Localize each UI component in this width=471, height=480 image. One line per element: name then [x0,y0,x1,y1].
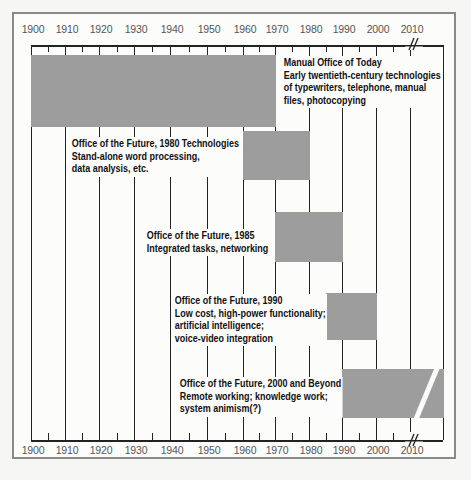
label-line: Remote working; knowledge work; [180,391,341,404]
axis-label-top: 1980 [300,23,323,35]
axis-label-top: 1920 [90,23,113,35]
tick-half-top [292,45,293,52]
bottom-axis-line [31,440,443,442]
axis-label-bottom: 1960 [234,444,257,456]
timeline-bar [31,55,276,127]
label-manual-office: Manual Office of Today Early twentieth-c… [282,56,442,108]
axis-label-top: 1960 [234,23,257,35]
label-title: Office of the Future, 1990 [175,295,326,308]
tick-half-top [117,45,118,52]
axis-label-top: 2000 [367,23,390,35]
timeline-bar [243,131,310,180]
label-title: Office of the Future, 1985 [147,230,269,243]
axis-label-bottom: 1980 [300,444,323,456]
axis-label-bottom: 1990 [333,444,356,456]
axis-label-bottom: 2000 [367,444,390,456]
axis-label-top: 1940 [161,23,184,35]
label-line: files, photocopying [284,95,441,108]
axis-label-bottom: 1900 [22,444,45,456]
label-line: of typewriters, telephone, manual [284,82,441,95]
axis-label-top: 1970 [266,23,289,35]
timeline-bar [342,369,444,418]
label-line: artificial intelligence; [175,320,326,333]
label-future-1980: Office of the Future, 1980 Technologies … [70,137,241,177]
label-line: Stand-alone word processing, [72,151,239,164]
top-axis-line [31,45,443,47]
label-future-2000: Office of the Future, 2000 and Beyond Re… [178,377,343,417]
tick-half-bottom [393,433,394,440]
tick-half-top [326,45,327,52]
timeline-bar [275,212,343,262]
axis-label-top: 1900 [22,23,45,35]
axis-label-bottom: 1950 [198,444,221,456]
label-line: system animism(?) [180,403,341,416]
axis-label-top: 1950 [198,23,221,35]
label-line: Integrated tasks, networking [147,243,269,256]
axis-label-bottom: 1920 [90,444,113,456]
tick-half-top [82,45,83,52]
tick-half-bottom [225,433,226,440]
tick-half-bottom [359,433,360,440]
tick-half-bottom [48,433,49,440]
axis-label-bottom: 2010 [401,444,424,456]
tick-half-top [259,45,260,52]
axis-label-top: 2010 [401,23,424,35]
axis-label-top: 1990 [333,23,356,35]
axis-label-bottom: 1910 [56,444,79,456]
tick-half-bottom [152,433,153,440]
axis-label-top: 1930 [125,23,148,35]
label-future-1985: Office of the Future, 1985 Integrated ta… [145,229,270,256]
tick-half-top [48,45,49,52]
axis-label-bottom: 1970 [266,444,289,456]
tick-half-bottom [326,433,327,440]
tick-half-bottom [189,433,190,440]
label-line: Low cost, high-power functionality; [175,308,326,321]
tick-half-bottom [292,433,293,440]
axis-label-top: 1910 [56,23,79,35]
tick-half-bottom [82,433,83,440]
tick-half-top [189,45,190,52]
label-line: Early twentieth-century technologies [284,70,441,83]
axis-label-bottom: 1930 [125,444,148,456]
label-title: Office of the Future, 2000 and Beyond [180,378,341,391]
label-title: Manual Office of Today [284,57,441,70]
tick-half-top [359,45,360,52]
axis-label-bottom: 1940 [161,444,184,456]
timeline-bar [326,293,378,340]
tick-half-top [393,45,394,52]
label-future-1990: Office of the Future, 1990 Low cost, hig… [173,294,327,346]
label-line: voice-video integration [175,333,326,346]
label-title: Office of the Future, 1980 Technologies [72,138,239,151]
tick-half-bottom [117,433,118,440]
tick-half-top [152,45,153,52]
label-line: data analysis, etc. [72,163,239,176]
tick-half-top [225,45,226,52]
tick-half-bottom [259,433,260,440]
